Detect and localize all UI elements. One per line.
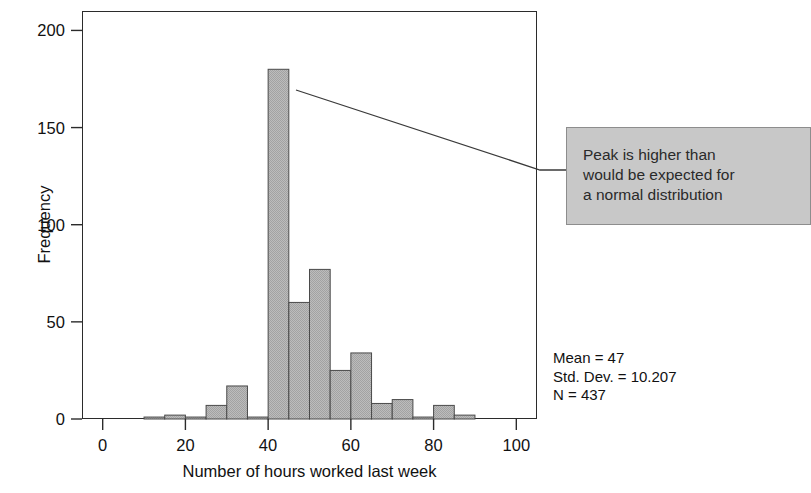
x-axis-title: Number of hours worked last week (82, 462, 537, 481)
histogram-figure: 050100150200 020406080100 Frequency Numb… (0, 0, 811, 493)
y-tick-label: 150 (0, 118, 65, 137)
y-axis-title: Frequency (35, 145, 54, 305)
annotation-text: Peak is higher than would be expected fo… (583, 145, 799, 205)
y-tick-label: 200 (0, 21, 65, 40)
x-tick-label: 20 (176, 436, 195, 455)
annotation-line-3: a normal distribution (583, 186, 723, 203)
annotation-line-1: Peak is higher than (583, 146, 716, 163)
y-tick-label: 50 (0, 312, 65, 331)
x-tick-label: 80 (424, 436, 443, 455)
x-tick-label: 100 (502, 436, 530, 455)
stat-n: N = 437 (553, 386, 677, 405)
x-tick-label: 0 (98, 436, 107, 455)
statistics-block: Mean = 47 Std. Dev. = 10.207 N = 437 (553, 349, 677, 405)
x-tick-label: 60 (342, 436, 361, 455)
stat-std-dev: Std. Dev. = 10.207 (553, 368, 677, 387)
stat-mean: Mean = 47 (553, 349, 677, 368)
y-axis-ticks (71, 30, 82, 419)
x-axis-ticks (103, 419, 517, 430)
annotation-line-2: would be expected for (583, 166, 735, 183)
y-tick-label: 0 (0, 410, 65, 429)
x-tick-label: 40 (259, 436, 278, 455)
annotation-callout-box: Peak is higher than would be expected fo… (566, 127, 811, 225)
y-tick-label: 100 (0, 215, 65, 234)
plot-frame (82, 11, 537, 419)
